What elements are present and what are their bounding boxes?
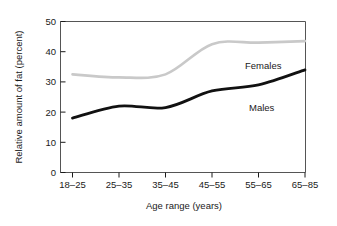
chart-figure: 50 40 30 20 10 0 18–25 25–35 35–45 45–55…	[0, 0, 337, 226]
x-tick-label-55-65: 55–65	[245, 179, 271, 190]
y-tick-label-50: 50	[45, 16, 56, 27]
fat-vs-age-line-chart: 50 40 30 20 10 0 18–25 25–35 35–45 45–55…	[0, 0, 337, 226]
y-tick-label-10: 10	[45, 137, 56, 148]
y-tick-label-20: 20	[45, 107, 56, 118]
y-axis-title: Relative amount of fat (percent)	[13, 30, 24, 163]
x-tick-label-45-55: 45–55	[199, 179, 225, 190]
x-axis-title: Age range (years)	[146, 200, 222, 211]
x-tick-label-35-45: 35–45	[152, 179, 178, 190]
y-tick-label-40: 40	[45, 46, 56, 57]
y-tick-label-30: 30	[45, 76, 56, 87]
series-label-males: Males	[249, 102, 275, 113]
x-tick-label-65-85: 65–85	[292, 179, 318, 190]
x-tick-label-25-35: 25–35	[106, 179, 132, 190]
series-label-females: Females	[245, 60, 282, 71]
x-tick-label-18-25: 18–25	[59, 179, 85, 190]
y-tick-label-0: 0	[51, 167, 56, 178]
